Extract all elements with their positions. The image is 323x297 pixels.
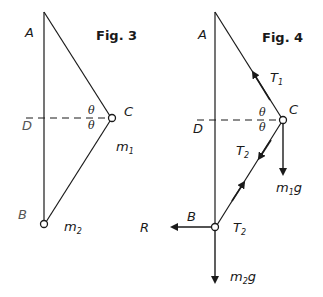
label-theta-lower: θ <box>88 119 95 132</box>
mass-m2-circle <box>212 224 219 231</box>
label-weight-m1g: m1g <box>276 180 302 197</box>
figure-4: A Fig. 4 T1 C θ θ D T2 m1g B R T2 m2g <box>140 12 303 286</box>
label-point-a: A <box>197 27 207 42</box>
label-point-c: C <box>124 104 134 119</box>
mass-m1-circle <box>280 117 287 124</box>
string-cb <box>46 121 110 222</box>
label-point-c: C <box>289 102 299 117</box>
label-point-b: B <box>18 207 27 222</box>
figure-title: Fig. 3 <box>96 28 137 43</box>
label-point-b: B <box>187 209 196 224</box>
mass-m1-circle <box>109 115 116 122</box>
label-mass-m1: m1 <box>116 139 134 156</box>
label-theta-lower: θ <box>259 121 266 134</box>
label-reaction-r: R <box>140 220 149 235</box>
mass-m2-circle <box>41 221 48 228</box>
label-theta-upper: θ <box>88 104 95 117</box>
tension-t1-arrow <box>254 74 270 100</box>
string-ac <box>215 12 281 117</box>
label-tension-t1: T1 <box>270 70 283 87</box>
label-point-d: D <box>193 121 203 136</box>
diagram-canvas: A Fig. 3 C D θ θ m1 B m2 A Fig. 4 T1 <box>0 0 323 297</box>
tension-t2-upper-arrow <box>260 140 271 157</box>
tension-t2-lower-arrow <box>232 184 243 201</box>
label-point-d: D <box>22 118 32 133</box>
label-mass-m2: m2 <box>64 219 82 236</box>
label-theta-upper: θ <box>259 106 266 119</box>
label-point-a: A <box>24 25 34 40</box>
label-weight-m2g: m2g <box>230 269 256 286</box>
label-tension-t2-lower: T2 <box>233 220 246 237</box>
figure-title: Fig. 4 <box>262 30 303 45</box>
label-tension-t2-upper: T2 <box>236 143 249 160</box>
figure-3: A Fig. 3 C D θ θ m1 B m2 <box>18 12 137 236</box>
string-cb <box>217 123 281 225</box>
